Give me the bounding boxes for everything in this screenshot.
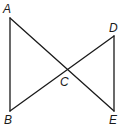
segment-bd [10,36,114,111]
point-label-a: A [2,2,11,16]
geometry-diagram: A B C D E [0,0,122,126]
point-label-c: C [60,75,69,89]
point-label-d: D [109,21,118,35]
point-label-e: E [109,113,118,126]
segment-ae [10,18,114,111]
point-label-b: B [4,113,12,126]
